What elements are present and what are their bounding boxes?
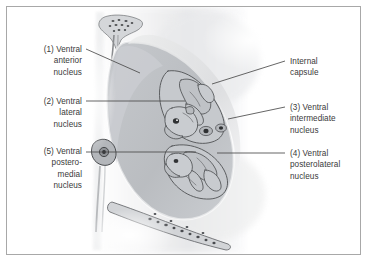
label-internal-capsule: Internal capsule xyxy=(290,56,360,79)
label-ventral-intermediate-nucleus: (3) Ventral intermediate nucleus xyxy=(290,102,362,136)
label-ventral-posteromedial-nucleus: (5) Ventral postero- medial nucleus xyxy=(14,146,82,191)
label-ventral-lateral-nucleus: (2) Ventral lateral nucleus xyxy=(14,96,82,130)
label-ventral-posterolateral-nucleus: (4) Ventral posterolateral nucleus xyxy=(290,148,362,182)
figure-root: (1) Ventral anterior nucleus (2) Ventral… xyxy=(0,0,368,262)
label-ventral-anterior-nucleus: (1) Ventral anterior nucleus xyxy=(14,44,82,78)
